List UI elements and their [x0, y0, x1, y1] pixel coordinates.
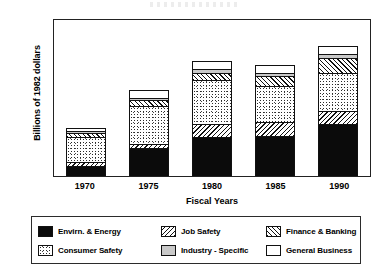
legend-swatch-consumer-safety: [38, 245, 53, 256]
bar-segment-1985-industry-specific[interactable]: [255, 73, 295, 76]
legend-item-consumer-safety[interactable]: Consumer Safety: [38, 241, 161, 260]
bar-segment-1980-industry-specific[interactable]: [192, 69, 232, 73]
bar-segment-1975-industry-specific[interactable]: [129, 98, 169, 100]
bar-column-1970[interactable]: [66, 128, 106, 176]
bar-segment-1980-general-business[interactable]: [192, 61, 232, 69]
bars-layer: [54, 20, 370, 176]
bar-segment-1975-envirn-energy[interactable]: [129, 148, 169, 176]
legend-swatch-finance-banking: [266, 226, 281, 237]
bar-segment-1975-finance-banking[interactable]: [129, 100, 169, 106]
legend-item-finance-banking[interactable]: Finance & Banking: [266, 222, 356, 241]
bar-segment-1980-envirn-energy[interactable]: [192, 137, 232, 176]
bar-segment-1990-industry-specific[interactable]: [318, 54, 358, 57]
scan-artifact: [150, 2, 240, 7]
bar-segment-1990-envirn-energy[interactable]: [318, 124, 358, 176]
legend-item-envirn-energy[interactable]: Envirn. & Energy: [38, 222, 161, 241]
bar-column-1980[interactable]: [192, 61, 232, 176]
legend-swatch-job-safety: [161, 226, 176, 237]
legend-label-general-business: General Business: [286, 246, 352, 255]
bar-segment-1985-envirn-energy[interactable]: [255, 136, 295, 176]
legend-swatch-industry-specific: [161, 245, 176, 256]
bar-segment-1990-job-safety[interactable]: [318, 111, 358, 124]
bar-segment-1975-consumer-safety[interactable]: [129, 106, 169, 145]
legend-label-industry-specific: Industry - Specific: [181, 246, 248, 255]
bar-column-1975[interactable]: [129, 90, 169, 176]
bar-segment-1980-consumer-safety[interactable]: [192, 80, 232, 123]
bar-segment-1970-industry-specific[interactable]: [66, 131, 106, 133]
x-tick-label-1970: 1970: [55, 181, 115, 191]
legend-label-envirn-energy: Envirn. & Energy: [58, 227, 121, 236]
legend-label-consumer-safety: Consumer Safety: [58, 246, 122, 255]
x-tick-label-1990: 1990: [309, 181, 369, 191]
legend-item-general-business[interactable]: General Business: [266, 241, 356, 260]
bar-segment-1985-consumer-safety[interactable]: [255, 86, 295, 122]
bar-segment-1980-job-safety[interactable]: [192, 124, 232, 137]
x-tick-label-1975: 1975: [118, 181, 178, 191]
legend: Envirn. & EnergyJob SafetyFinance & Bank…: [31, 216, 361, 264]
bar-column-1990[interactable]: [318, 46, 358, 176]
bar-segment-1970-finance-banking[interactable]: [66, 133, 106, 136]
legend-item-industry-specific[interactable]: Industry - Specific: [161, 241, 266, 260]
bar-segment-1990-general-business[interactable]: [318, 46, 358, 55]
bar-segment-1970-envirn-energy[interactable]: [66, 166, 106, 176]
legend-label-finance-banking: Finance & Banking: [286, 227, 356, 236]
bar-segment-1980-finance-banking[interactable]: [192, 73, 232, 81]
bar-column-1985[interactable]: [255, 65, 295, 176]
bar-segment-1985-general-business[interactable]: [255, 65, 295, 73]
bar-segment-1985-job-safety[interactable]: [255, 122, 295, 135]
bar-segment-1970-general-business[interactable]: [66, 128, 106, 131]
bar-segment-1990-consumer-safety[interactable]: [318, 73, 358, 112]
bar-segment-1975-general-business[interactable]: [129, 90, 169, 98]
x-tick-label-1985: 1985: [246, 181, 306, 191]
stacked-bar-chart: Billions of 1982 dollars 0246810 1970197…: [0, 0, 385, 276]
plot-area: [53, 19, 371, 177]
legend-swatch-general-business: [266, 245, 281, 256]
legend-label-job-safety: Job Safety: [181, 227, 220, 236]
x-tick-label-1980: 1980: [182, 181, 242, 191]
y-axis-title: Billions of 1982 dollars: [32, 18, 42, 168]
legend-swatch-envirn-energy: [38, 226, 53, 237]
bar-segment-1975-job-safety[interactable]: [129, 144, 169, 147]
bar-segment-1970-consumer-safety[interactable]: [66, 137, 106, 162]
x-axis-title: Fiscal Years: [53, 196, 371, 206]
bar-segment-1985-finance-banking[interactable]: [255, 76, 295, 86]
legend-item-job-safety[interactable]: Job Safety: [161, 222, 266, 241]
bar-segment-1990-finance-banking[interactable]: [318, 58, 358, 73]
bar-segment-1970-job-safety[interactable]: [66, 162, 106, 166]
